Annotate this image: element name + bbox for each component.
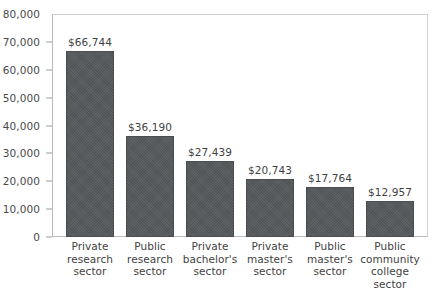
y-axis-tick-label: 10,000 — [3, 203, 40, 215]
bar[interactable] — [246, 179, 294, 237]
bar[interactable] — [66, 51, 114, 237]
x-axis-category-label-line: sector — [119, 265, 181, 278]
bar[interactable] — [186, 161, 234, 237]
bar-value-label: $20,743 — [248, 164, 292, 176]
bar-chart-figure: 010,00020,00030,00040,00050,00060,00070,… — [0, 0, 442, 300]
y-axis-tick-label: 50,000 — [3, 92, 40, 104]
x-axis-category-label: Privatebachelor'ssector — [179, 240, 241, 278]
x-axis-category-label-line: research — [119, 253, 181, 266]
bar-group[interactable]: $27,439 — [186, 14, 234, 237]
x-axis-category-label: Privatemaster'ssector — [239, 240, 301, 278]
x-axis-category-label-line: sector — [179, 265, 241, 278]
bar-group[interactable]: $12,957 — [366, 14, 414, 237]
bar-value-label: $17,764 — [308, 172, 352, 184]
x-axis-category-label-line: master's — [239, 253, 301, 266]
x-axis-category-label: Publicmaster'ssector — [299, 240, 361, 278]
x-axis-category-label-line: sector — [239, 265, 301, 278]
x-axis-category-label-line: Public — [359, 240, 421, 253]
x-axis-category-label-line: research — [59, 253, 121, 266]
y-axis-tick-label: 20,000 — [3, 175, 40, 187]
y-axis: 010,00020,00030,00040,00050,00060,00070,… — [0, 0, 52, 300]
bar-value-label: $66,744 — [68, 36, 112, 48]
x-axis-category-label: Privateresearchsector — [59, 240, 121, 278]
x-axis-category-label-line: Private — [59, 240, 121, 253]
y-axis-tick-label: 30,000 — [3, 147, 40, 159]
y-axis-tick-label: 80,000 — [3, 8, 40, 20]
bar-value-label: $27,439 — [188, 146, 232, 158]
bar-group[interactable]: $66,744 — [66, 14, 114, 237]
x-axis-category-label-line: Private — [239, 240, 301, 253]
x-axis: PrivateresearchsectorPublicresearchsecto… — [52, 240, 428, 300]
x-axis-category-label: Publiccommunitycollegesector — [359, 240, 421, 290]
x-axis-category-label-line: college — [359, 265, 421, 278]
x-axis-category-label-line: bachelor's — [179, 253, 241, 266]
x-axis-category-label-line: sector — [299, 265, 361, 278]
x-axis-category-label-line: sector — [59, 265, 121, 278]
x-axis-category-label-line: master's — [299, 253, 361, 266]
x-axis-category-label-line: Private — [179, 240, 241, 253]
x-axis-category-label-line: sector — [359, 278, 421, 291]
bar-group[interactable]: $20,743 — [246, 14, 294, 237]
bar-group[interactable]: $36,190 — [126, 14, 174, 237]
bar-value-label: $12,957 — [368, 186, 412, 198]
x-axis-category-label-line: Public — [119, 240, 181, 253]
bar[interactable] — [306, 187, 354, 237]
bar-group[interactable]: $17,764 — [306, 14, 354, 237]
y-axis-tick-label: 70,000 — [3, 36, 40, 48]
y-axis-tick-label: 0 — [33, 231, 40, 243]
bar[interactable] — [126, 136, 174, 237]
y-axis-tick-label: 40,000 — [3, 120, 40, 132]
y-axis-tick-label: 60,000 — [3, 64, 40, 76]
bar[interactable] — [366, 201, 414, 237]
bar-value-label: $36,190 — [128, 121, 172, 133]
x-axis-category-label-line: Public — [299, 240, 361, 253]
x-axis-category-label-line: community — [359, 253, 421, 266]
x-axis-category-label: Publicresearchsector — [119, 240, 181, 278]
bars-layer: $66,744$36,190$27,439$20,743$17,764$12,9… — [52, 14, 428, 237]
